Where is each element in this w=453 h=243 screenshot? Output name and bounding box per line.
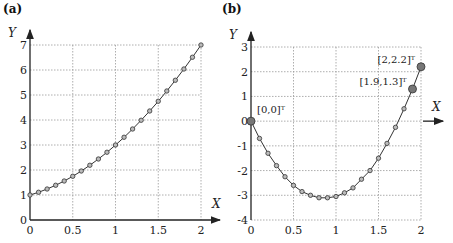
y-tick-label: -3 <box>237 189 248 202</box>
data-point <box>266 151 270 155</box>
data-point <box>190 55 194 59</box>
x-tick-label: 0 <box>248 224 255 237</box>
data-point <box>148 109 152 113</box>
highlight-point <box>417 63 425 71</box>
y-tick-label: 7 <box>20 39 27 52</box>
y-tick-label: 0 <box>20 214 27 227</box>
data-point <box>359 177 363 181</box>
y-tick-label: 1 <box>241 90 248 103</box>
x-axis-label: X <box>431 100 441 114</box>
point-annotation: [1.9,1.3]ᵀ <box>360 76 408 87</box>
highlight-point <box>247 117 255 125</box>
data-point <box>122 135 126 139</box>
point-annotation: [2,2.2]ᵀ <box>378 54 416 65</box>
x-tick-label: 2 <box>418 224 425 237</box>
y-tick-label: -2 <box>237 165 248 178</box>
y-axis-label: Y <box>8 26 17 40</box>
data-point <box>402 107 406 111</box>
data-point <box>274 163 278 167</box>
data-point <box>291 183 295 187</box>
point-annotation: [0,0]ᵀ <box>257 104 286 115</box>
data-point <box>257 136 261 140</box>
x-tick-label: 2 <box>198 224 205 237</box>
x-tick-label: 0.5 <box>285 224 303 237</box>
x-tick-label: 1 <box>333 224 340 237</box>
data-point <box>342 191 346 195</box>
x-axis-label: X <box>211 197 221 211</box>
y-tick-label: 3 <box>20 139 27 152</box>
y-tick-label: 2 <box>241 66 248 79</box>
y-tick-label: 5 <box>20 89 27 102</box>
panel-label: (b) <box>222 2 242 16</box>
y-tick-label: -4 <box>237 214 248 227</box>
data-point <box>105 150 109 154</box>
data-point <box>199 43 203 47</box>
data-point <box>62 179 66 183</box>
data-point <box>71 174 75 178</box>
data-point <box>113 143 117 147</box>
data-point <box>368 168 372 172</box>
data-point <box>325 196 329 200</box>
y-tick-label: 1 <box>20 189 27 202</box>
data-point <box>79 169 83 173</box>
x-tick-label: 1.5 <box>370 224 388 237</box>
y-tick-label: 2 <box>20 164 27 177</box>
data-point <box>308 193 312 197</box>
y-tick-label: 3 <box>241 41 248 54</box>
data-point <box>182 67 186 71</box>
data-point <box>173 78 177 82</box>
data-point <box>28 193 32 197</box>
highlight-point <box>409 85 417 93</box>
y-tick-label: 4 <box>20 114 27 127</box>
data-point <box>317 196 321 200</box>
data-point <box>36 190 40 194</box>
data-point <box>156 99 160 103</box>
x-tick-label: 0 <box>27 224 34 237</box>
data-point <box>130 127 134 131</box>
chart-figure: 00.511.5201234567YX(a)00.511.52-4-3-2-10… <box>0 0 453 243</box>
data-point <box>300 189 304 193</box>
panel-label: (a) <box>3 2 22 16</box>
data-point <box>351 186 355 190</box>
data-point <box>283 175 287 179</box>
data-point <box>96 157 100 161</box>
x-tick-label: 1 <box>112 224 119 237</box>
data-point <box>88 163 92 167</box>
data-point <box>393 125 397 129</box>
data-point <box>334 194 338 198</box>
data-point <box>45 187 49 191</box>
y-axis-label: Y <box>229 28 238 42</box>
x-tick-label: 0.5 <box>64 224 82 237</box>
y-tick-label: -1 <box>237 140 248 153</box>
y-tick-label: 6 <box>20 64 27 77</box>
data-point <box>139 118 143 122</box>
data-point <box>385 141 389 145</box>
data-point <box>165 89 169 93</box>
chart-panel-b: 00.511.52-4-3-2-10123YX(b)[0,0]ᵀ[1.9,1.3… <box>222 2 443 237</box>
data-point <box>376 156 380 160</box>
x-tick-label: 1.5 <box>150 224 168 237</box>
chart-panel-a: 00.511.5201234567YX(a) <box>3 2 221 237</box>
data-point <box>53 183 57 187</box>
